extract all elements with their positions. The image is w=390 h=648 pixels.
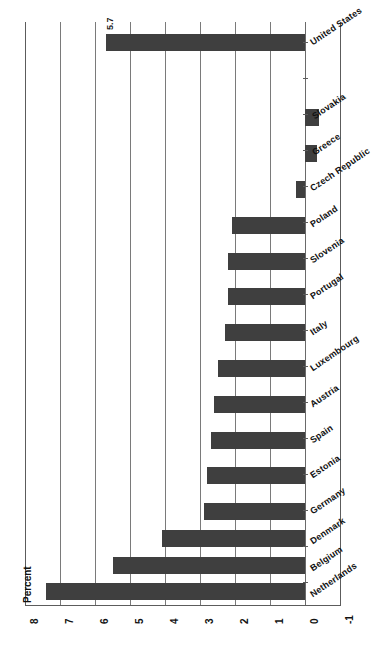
bars-layer: [0, 0, 390, 648]
bar-netherlands: [46, 583, 305, 600]
bar-denmark: [162, 530, 306, 547]
tick-labels: 8 7 6 5 4 3 2 1 0 -1: [0, 612, 390, 648]
tick-label-3: 3: [204, 618, 215, 624]
bar-estonia: [207, 467, 305, 484]
bar-portugal: [228, 288, 305, 305]
tick-label-1: 1: [274, 618, 285, 624]
tick-label-neg-1: -1: [344, 615, 355, 624]
tick-label-2: 2: [239, 618, 250, 624]
bar-luxembourg: [218, 360, 306, 377]
tick-label-8: 8: [29, 618, 40, 624]
bar-austria: [214, 396, 305, 413]
bar-slovenia: [228, 253, 305, 270]
bar-chart: 5.7 United States Slovakia Greece Czech …: [0, 0, 390, 648]
bar-poland: [232, 217, 306, 234]
bar-germany: [204, 503, 306, 520]
tick-label-5: 5: [134, 618, 145, 624]
bar-spain: [211, 432, 306, 449]
bar-belgium: [113, 557, 306, 574]
tick-label-7: 7: [64, 618, 75, 624]
bar-slovakia: [305, 109, 319, 126]
bar-czech-republic: [296, 181, 305, 198]
tick-label-6: 6: [99, 618, 110, 624]
bar-value-label-united-states: 5.7: [105, 17, 115, 30]
tick-label-4: 4: [169, 618, 180, 624]
tick-label-0: 0: [309, 618, 320, 624]
bar-greece: [305, 145, 317, 162]
bar-italy: [225, 324, 306, 341]
bar-united-states: [106, 34, 306, 51]
axis-title-percent: Percent: [22, 566, 33, 603]
